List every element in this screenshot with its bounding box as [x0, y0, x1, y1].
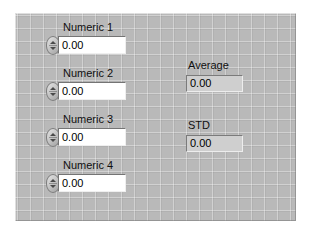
spinner-divider [49, 137, 57, 138]
spinner-down-arrow-icon[interactable] [50, 139, 56, 142]
numeric-input-4[interactable]: 0.00 [58, 174, 126, 192]
numeric-control-4-label: Numeric 4 [63, 159, 113, 171]
std-indicator-value: 0.00 [186, 135, 243, 152]
spinner-down-arrow-icon[interactable] [50, 47, 56, 50]
spinner-up-arrow-icon[interactable] [50, 41, 56, 44]
spinner-up-arrow-icon[interactable] [50, 179, 56, 182]
spinner-divider [49, 183, 57, 184]
numeric-control-2-label: Numeric 2 [63, 67, 113, 79]
spinner-divider [49, 45, 57, 46]
average-indicator-value: 0.00 [186, 75, 243, 92]
numeric-input-1[interactable]: 0.00 [58, 36, 126, 54]
spinner-divider [49, 91, 57, 92]
spinner-up-arrow-icon[interactable] [50, 133, 56, 136]
numeric-input-2[interactable]: 0.00 [58, 82, 126, 100]
numeric-control-1-label: Numeric 1 [63, 21, 113, 33]
numeric-input-3[interactable]: 0.00 [58, 128, 126, 146]
spinner-up-arrow-icon[interactable] [50, 87, 56, 90]
numeric-control-3-label: Numeric 3 [63, 113, 113, 125]
std-indicator-label: STD [188, 119, 210, 131]
spinner-down-arrow-icon[interactable] [50, 185, 56, 188]
average-indicator-label: Average [188, 59, 229, 71]
labview-front-panel: Numeric 1 0.00 Numeric 2 0.00 Numeric 3 … [15, 13, 296, 221]
spinner-down-arrow-icon[interactable] [50, 93, 56, 96]
